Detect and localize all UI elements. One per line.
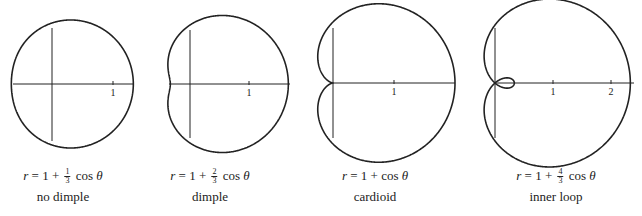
equation-cardioid: r = 1 + cos θ: [342, 168, 408, 184]
tick-label: 1: [392, 86, 397, 97]
label-no-dimple: no dimple: [37, 189, 89, 205]
tick-label: 1: [551, 86, 556, 97]
coefficient-fraction: 43: [558, 168, 564, 185]
label-cardioid: cardioid: [354, 189, 397, 205]
limacon-figure: 11112 r = 1 + 13 cos θno dimpler = 1 + 2…: [0, 0, 642, 216]
plot-no-dimple: 1: [11, 20, 133, 148]
plot-inner-loop: 12: [484, 0, 634, 167]
equation-dimple: r = 1 + 23 cos θ: [170, 168, 249, 186]
plot-dimple: 1: [168, 15, 290, 152]
equation-no-dimple: r = 1 + 13 cos θ: [23, 168, 102, 186]
equation-inner-loop: r = 1 + 43 cos θ: [516, 168, 595, 186]
coefficient-fraction: 13: [65, 168, 71, 185]
coefficient-fraction: 23: [212, 168, 218, 185]
plot-cardioid: 1: [318, 4, 455, 162]
tick-label: 1: [111, 87, 116, 98]
label-inner-loop: inner loop: [529, 189, 582, 205]
label-dimple: dimple: [192, 189, 228, 205]
tick-label: 2: [609, 86, 614, 97]
tick-label: 1: [247, 87, 252, 98]
